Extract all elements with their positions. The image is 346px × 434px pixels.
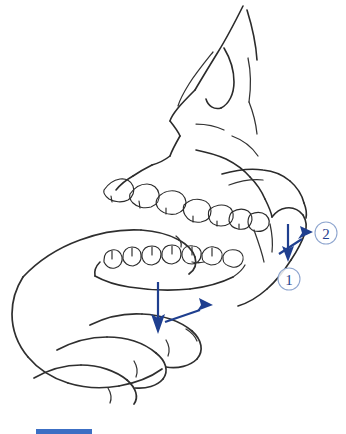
caption-color-bar (36, 429, 92, 434)
arrow-chin-up-right (165, 298, 213, 322)
callout-1: 1 (278, 268, 300, 290)
zygomatic-region (152, 102, 257, 165)
hand-palm-fingers (12, 277, 201, 404)
callout-2: 2 (315, 222, 337, 244)
maxilla-outline (116, 136, 265, 199)
mandible-outline (238, 199, 306, 306)
nasal-bridge (170, 90, 195, 136)
lower-teeth-row (95, 245, 245, 290)
callout-1-label: 1 (285, 272, 293, 288)
caption-strip (0, 427, 346, 434)
cranium-outline (178, 6, 257, 106)
zygomatic-arch (222, 169, 304, 203)
figure-container: 1 2 (0, 0, 346, 434)
orbit-outline (206, 48, 250, 109)
upper-teeth-row (104, 179, 269, 232)
arrow-condyle-up-right (279, 226, 313, 254)
arrow-condyle-down (282, 224, 294, 262)
callout-2-label: 2 (322, 226, 330, 242)
anatomical-illustration: 1 2 (0, 0, 346, 434)
hand-thumb (23, 230, 204, 277)
